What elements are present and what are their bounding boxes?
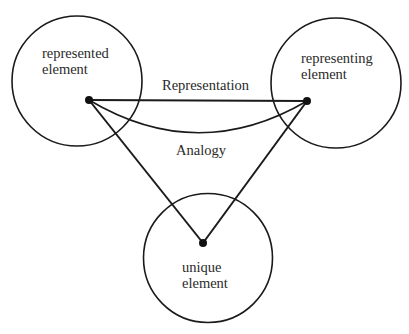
- analogy-label: Analogy: [176, 142, 227, 158]
- representing-label-line1: representing: [301, 50, 373, 66]
- represented-node-dot: [85, 96, 93, 104]
- representing-element-circle: [271, 18, 401, 148]
- unique-node-dot: [199, 239, 207, 247]
- represented-element-circle: [12, 16, 142, 146]
- representing-to-unique-edge: [203, 101, 307, 243]
- unique-label-line1: unique: [182, 259, 221, 275]
- representing-label-line2: element: [301, 66, 347, 82]
- represented-label-line1: represented: [42, 45, 110, 61]
- representation-label: Representation: [162, 77, 250, 93]
- representing-node-dot: [303, 97, 311, 105]
- unique-label-line2: element: [182, 275, 228, 291]
- analogy-diagram: represented element representing element…: [0, 0, 409, 334]
- represented-to-unique-edge: [89, 100, 203, 243]
- representation-edge: [89, 100, 307, 101]
- unique-element-circle: [144, 194, 273, 323]
- represented-label-line2: element: [42, 61, 88, 77]
